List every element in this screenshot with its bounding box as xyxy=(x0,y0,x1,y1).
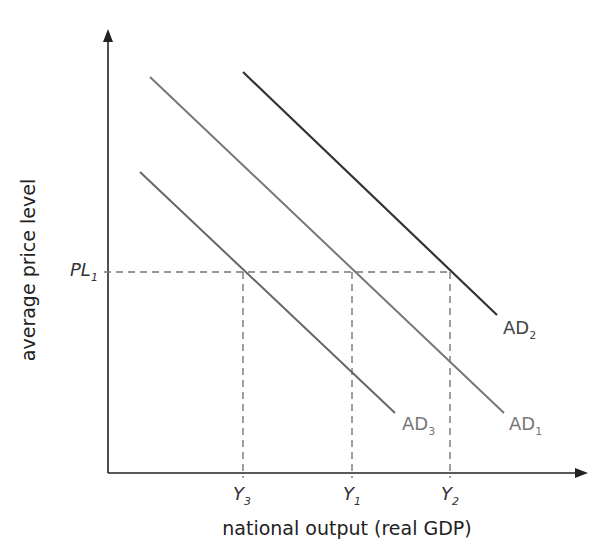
ad2-label: AD2 xyxy=(503,317,536,342)
ad3-curve xyxy=(140,172,395,413)
y1-tick-label: Y1 xyxy=(343,483,361,508)
pl1-label: PL1 xyxy=(70,259,98,284)
ad3-label: AD3 xyxy=(402,413,435,438)
x-axis-arrow-icon xyxy=(575,468,588,478)
ad2-curve xyxy=(243,72,497,315)
ad1-label: AD1 xyxy=(509,413,542,438)
y-axis-arrow-icon xyxy=(103,29,113,42)
y-axis-label: average price level xyxy=(17,179,39,361)
x-axis-label: national output (real GDP) xyxy=(222,517,471,539)
ad1-curve xyxy=(150,77,504,413)
y2-tick-label: Y2 xyxy=(441,483,459,508)
y3-tick-label: Y3 xyxy=(233,483,251,508)
guide-lines xyxy=(104,272,450,478)
